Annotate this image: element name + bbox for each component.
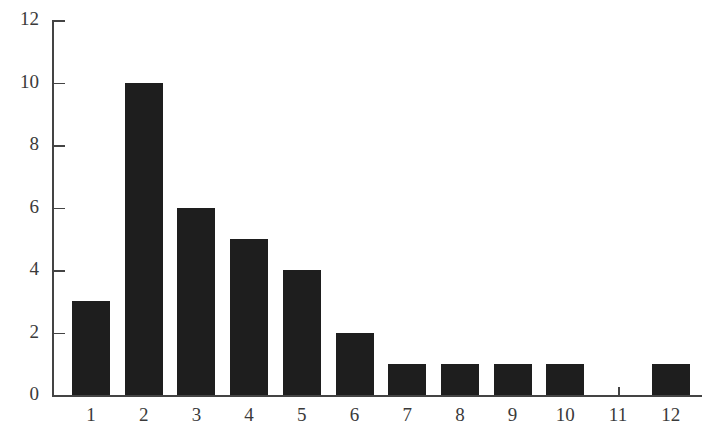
y-tick-label: 6 <box>3 197 39 217</box>
x-tick-label: 2 <box>124 405 164 425</box>
y-tick-label: 0 <box>3 384 39 404</box>
x-tick-label: 10 <box>545 405 585 425</box>
y-tick-mark <box>52 208 65 210</box>
x-axis <box>52 395 702 397</box>
y-tick-mark <box>52 333 65 335</box>
y-tick-label: 12 <box>3 9 39 29</box>
y-tick-mark <box>52 395 65 397</box>
bar-chart: 024681012 123456789101112 <box>0 0 713 444</box>
bar-5 <box>283 270 321 395</box>
bar-1 <box>72 301 110 395</box>
x-tick-label: 12 <box>651 405 691 425</box>
bar-7 <box>388 364 426 395</box>
x-tick-label: 9 <box>493 405 533 425</box>
bar-9 <box>494 364 532 395</box>
y-tick-mark <box>52 270 65 272</box>
x-tick-label: 8 <box>440 405 480 425</box>
x-tick-label: 7 <box>387 405 427 425</box>
bar-10 <box>546 364 584 395</box>
y-tick-label: 8 <box>3 134 39 154</box>
y-tick-label: 10 <box>3 72 39 92</box>
x-tick-label: 6 <box>335 405 375 425</box>
bar-6 <box>336 333 374 396</box>
y-tick-label: 2 <box>3 322 39 342</box>
y-tick-mark <box>52 83 65 85</box>
bar-4 <box>230 239 268 395</box>
x-tick-label: 1 <box>71 405 111 425</box>
x-tick-label: 11 <box>598 405 638 425</box>
x-tick-label: 3 <box>176 405 216 425</box>
x-tick-label: 4 <box>229 405 269 425</box>
bar-2 <box>125 83 163 396</box>
y-tick-mark <box>52 145 65 147</box>
y-tick-label: 4 <box>3 259 39 279</box>
y-tick-mark <box>52 20 65 22</box>
bar-8 <box>441 364 479 395</box>
x-tick-label: 5 <box>282 405 322 425</box>
bar-12 <box>652 364 690 395</box>
zero-value-marker <box>618 387 620 395</box>
bar-3 <box>177 208 215 396</box>
